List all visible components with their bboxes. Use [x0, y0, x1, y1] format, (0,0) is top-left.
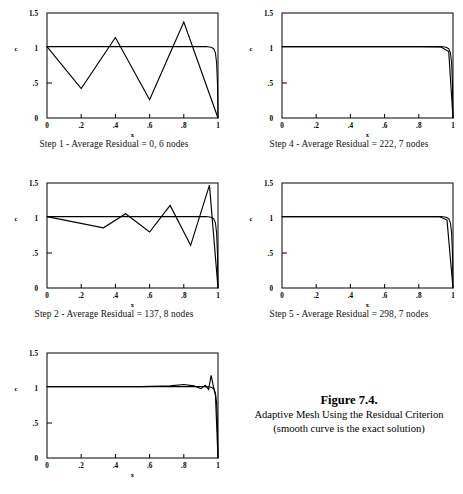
x-tick-label: .8	[416, 122, 422, 130]
x-tick-label: 1	[451, 122, 455, 130]
x-tick-label: 0	[45, 292, 49, 300]
x-tick-label: 0	[280, 122, 284, 130]
y-tick-label: 1	[34, 385, 38, 393]
plot-frame	[47, 183, 218, 288]
x-tick-label: .4	[348, 122, 354, 130]
chart-caption-step4: Step 4 - Average Residual = 222, 7 nodes	[235, 138, 463, 150]
x-axis-title: x	[131, 131, 135, 138]
y-tick-label: 1.5	[264, 180, 273, 188]
x-tick-label: .4	[113, 462, 119, 470]
plot-area-step2: 0.2.4.6.810.511.5xc	[0, 172, 228, 312]
y-axis-title: c	[250, 45, 253, 52]
chart-panel-step3: 0.2.4.6.810.511.5xc	[0, 342, 228, 494]
x-tick-label: 1	[216, 292, 220, 300]
y-axis-title: c	[15, 45, 18, 52]
x-tick-label: .6	[382, 292, 388, 300]
y-tick-label: .5	[268, 250, 274, 258]
y-tick-label: 1.5	[29, 350, 38, 358]
chart-caption-step1: Step 1 - Average Residual = 0, 6 nodes	[0, 138, 228, 150]
y-tick-label: 1	[34, 215, 38, 223]
x-tick-label: .6	[147, 462, 153, 470]
mesh-solution-curve	[282, 217, 453, 288]
y-axis-title: c	[15, 215, 18, 222]
mesh-solution-curve	[282, 47, 453, 118]
y-tick-label: 1.5	[264, 10, 273, 18]
plot-area-step4: 0.2.4.6.810.511.5xc	[235, 2, 463, 142]
y-tick-label: 1	[269, 45, 273, 53]
y-tick-label: .5	[268, 80, 274, 88]
x-tick-label: 0	[45, 122, 49, 130]
mesh-solution-curve	[47, 22, 218, 118]
x-tick-label: .4	[348, 292, 354, 300]
exact-solution-curve	[47, 387, 218, 458]
x-axis-title: x	[366, 301, 370, 308]
figure-title-line: Adaptive Mesh Using the Residual Criteri…	[235, 408, 463, 422]
x-tick-label: .2	[314, 292, 320, 300]
y-tick-label: 0	[269, 115, 273, 123]
x-tick-label: .8	[181, 292, 187, 300]
x-tick-label: .6	[382, 122, 388, 130]
plot-area-step5: 0.2.4.6.810.511.5xc	[235, 172, 463, 312]
y-axis-title: c	[15, 385, 18, 392]
y-tick-label: .5	[33, 250, 39, 258]
exact-solution-curve	[47, 47, 218, 118]
x-tick-label: .2	[314, 122, 320, 130]
x-tick-label: 0	[45, 462, 49, 470]
plot-area-step3: 0.2.4.6.810.511.5xc	[0, 342, 228, 482]
y-tick-label: 1.5	[29, 180, 38, 188]
y-tick-label: .5	[33, 420, 39, 428]
y-tick-label: .5	[33, 80, 39, 88]
exact-solution-curve	[47, 217, 218, 288]
x-axis-title: x	[131, 301, 135, 308]
plot-area-step1: 0.2.4.6.810.511.5xc	[0, 2, 228, 142]
x-tick-label: .4	[113, 292, 119, 300]
y-axis-title: c	[250, 215, 253, 222]
x-tick-label: 0	[280, 292, 284, 300]
mesh-solution-curve	[47, 185, 218, 288]
figure-caption-block: Figure 7.4. Adaptive Mesh Using the Resi…	[235, 392, 463, 436]
x-tick-label: .4	[113, 122, 119, 130]
chart-panel-step5: 0.2.4.6.810.511.5xc Step 5 - Average Res…	[235, 172, 463, 337]
y-tick-label: 0	[34, 115, 38, 123]
mesh-solution-curve	[47, 375, 218, 458]
x-tick-label: .2	[79, 122, 85, 130]
figure-number-label: Figure 7.4.	[235, 392, 463, 408]
plot-frame	[47, 13, 218, 118]
chart-panel-step2: 0.2.4.6.810.511.5xc Step 2 - Average Res…	[0, 172, 228, 337]
x-tick-label: .6	[147, 292, 153, 300]
chart-panel-step4: 0.2.4.6.810.511.5xc Step 4 - Average Res…	[235, 2, 463, 167]
x-tick-label: 1	[451, 292, 455, 300]
x-tick-label: .8	[181, 122, 187, 130]
exact-solution-curve	[282, 47, 453, 118]
plot-frame	[282, 183, 453, 288]
exact-solution-curve	[282, 217, 453, 288]
x-tick-label: .8	[416, 292, 422, 300]
y-tick-label: 1	[269, 215, 273, 223]
chart-caption-step5: Step 5 - Average Residual = 298, 7 nodes	[235, 308, 463, 320]
x-axis-title: x	[366, 131, 370, 138]
x-tick-label: 1	[216, 122, 220, 130]
y-tick-label: 1.5	[29, 10, 38, 18]
y-tick-label: 0	[34, 455, 38, 463]
y-tick-label: 1	[34, 45, 38, 53]
x-axis-title: x	[131, 471, 135, 478]
x-tick-label: .8	[181, 462, 187, 470]
plot-frame	[47, 353, 218, 458]
x-tick-label: .2	[79, 462, 85, 470]
chart-panel-step1: 0.2.4.6.810.511.5xc Step 1 - Average Res…	[0, 2, 228, 167]
figure-subtitle-line: (smooth curve is the exact solution)	[235, 422, 463, 436]
chart-caption-step2: Step 2 - Average Residual = 137, 8 nodes	[0, 308, 228, 320]
x-tick-label: 1	[216, 462, 220, 470]
figure-container: 0.2.4.6.810.511.5xc Step 1 - Average Res…	[0, 0, 463, 494]
x-tick-label: .6	[147, 122, 153, 130]
plot-frame	[282, 13, 453, 118]
y-tick-label: 0	[34, 285, 38, 293]
y-tick-label: 0	[269, 285, 273, 293]
x-tick-label: .2	[79, 292, 85, 300]
